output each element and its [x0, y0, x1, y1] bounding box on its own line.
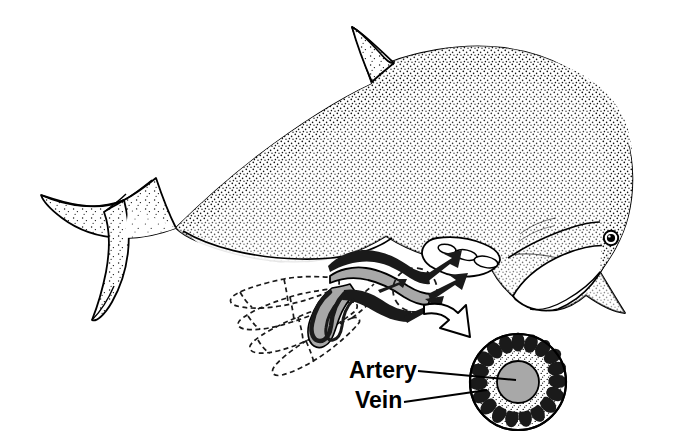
vessel-bundle: [308, 250, 468, 348]
callout-arrow: [424, 304, 470, 337]
eye: [604, 231, 618, 245]
artery-label: Artery: [349, 359, 417, 382]
cross-section: [468, 333, 567, 430]
figure-canvas: Artery Vein: [0, 0, 681, 444]
artery-lumen: [497, 361, 539, 403]
flow-arrow-2: [428, 273, 468, 301]
dolphin-diagram-svg: [0, 0, 681, 444]
vein-label: Vein: [355, 389, 402, 412]
